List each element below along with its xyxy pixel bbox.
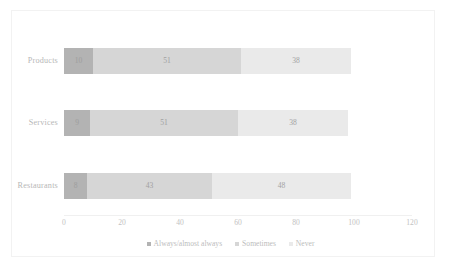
- bar-row: Services95138: [64, 110, 412, 136]
- bar-segment: 38: [241, 48, 351, 74]
- legend-swatch-icon: [235, 242, 239, 246]
- bar-value-label: 38: [289, 119, 297, 127]
- chart-legend: Always/almost alwaysSometimesNever: [0, 240, 461, 248]
- x-tick-label: 40: [176, 219, 184, 227]
- x-tick-label: 100: [348, 219, 359, 227]
- legend-label: Always/almost always: [154, 240, 223, 248]
- category-label-products: Products: [28, 57, 58, 65]
- bar-value-label: 43: [146, 182, 154, 190]
- bar-value-label: 38: [292, 57, 300, 65]
- bar-value-label: 8: [74, 182, 78, 190]
- bar-value-label: 10: [75, 57, 83, 65]
- legend-swatch-icon: [147, 242, 151, 246]
- plot-area: Products105138Services95138Restaurants84…: [64, 26, 412, 215]
- stacked-bar: 95138: [64, 110, 412, 136]
- bar-value-label: 51: [163, 57, 171, 65]
- x-tick-label: 20: [118, 219, 126, 227]
- bar-segment: 10: [64, 48, 93, 74]
- bar-segment: 8: [64, 173, 87, 199]
- bar-segment: 51: [90, 110, 238, 136]
- legend-item[interactable]: Sometimes: [235, 240, 276, 248]
- bar-segment: 48: [212, 173, 351, 199]
- x-tick-label: 60: [234, 219, 242, 227]
- legend-label: Sometimes: [242, 240, 276, 248]
- bar-value-label: 9: [75, 119, 79, 127]
- bar-segment: 38: [238, 110, 348, 136]
- stacked-bar: 105138: [64, 48, 412, 74]
- bar-value-label: 48: [278, 182, 286, 190]
- bar-row: Products105138: [64, 48, 412, 74]
- legend-item[interactable]: Always/almost always: [147, 240, 223, 248]
- bar-value-label: 51: [160, 119, 168, 127]
- category-label-services: Services: [29, 119, 58, 127]
- bar-segment: 9: [64, 110, 90, 136]
- legend-swatch-icon: [289, 242, 293, 246]
- x-axis-line: [64, 215, 412, 216]
- bar-segment: 51: [93, 48, 241, 74]
- x-tick-label: 120: [406, 219, 417, 227]
- bar-row: Restaurants84348: [64, 173, 412, 199]
- legend-label: Never: [296, 240, 315, 248]
- legend-item[interactable]: Never: [289, 240, 315, 248]
- chart-container: Products105138Services95138Restaurants84…: [0, 0, 461, 273]
- x-tick-label: 0: [62, 219, 66, 227]
- category-label-restaurants: Restaurants: [18, 182, 58, 190]
- bar-segment: 43: [87, 173, 212, 199]
- x-tick-label: 80: [292, 219, 300, 227]
- stacked-bar: 84348: [64, 173, 412, 199]
